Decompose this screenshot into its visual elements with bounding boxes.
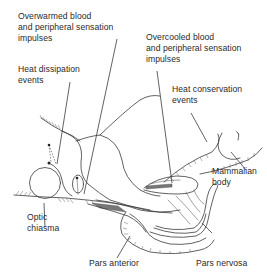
- pars-anterior-shape: [121, 212, 214, 254]
- label-line: impulses: [18, 33, 113, 44]
- label-overcooled-blood: Overcooled blood and peripheral sensatio…: [146, 32, 241, 65]
- preoptic-marker: [48, 144, 57, 165]
- leader-heat-conservation: [191, 113, 207, 142]
- label-heat-dissipation: Heat dissipation events: [18, 64, 80, 86]
- label-line: Optic: [27, 212, 59, 223]
- hypothalamus-outline: [62, 96, 172, 214]
- upper-hatched-edge: [40, 115, 80, 141]
- label-pars-nervosa: Pars nervosa: [196, 258, 247, 269]
- label-line: body: [212, 177, 257, 188]
- label-optic-chiasma: Optic chiasma: [27, 212, 59, 234]
- optic-chiasma-shape: [30, 163, 73, 199]
- label-line: Overwarmed blood: [18, 11, 113, 22]
- leader-pars-anterior: [117, 236, 130, 258]
- label-line: events: [18, 75, 80, 86]
- label-line: Heat conservation: [172, 84, 242, 95]
- label-line: Mammalian: [212, 166, 257, 177]
- label-pars-anterior: Pars anterior: [89, 258, 139, 269]
- label-line: chiasma: [27, 223, 59, 234]
- label-line: impulses: [146, 54, 241, 65]
- label-line: Pars nervosa: [196, 258, 247, 269]
- label-line: events: [172, 95, 242, 106]
- leader-heat-dissipation: [57, 82, 70, 164]
- label-line: Pars anterior: [89, 258, 139, 269]
- label-mammalian-body: Mammalian body: [212, 166, 257, 188]
- label-line: and peripheral sensation: [146, 43, 241, 54]
- label-line: and peripheral sensation: [18, 22, 113, 33]
- label-overwarmed-blood: Overwarmed blood and peripheral sensatio…: [18, 11, 113, 44]
- leader-overwarmed: [84, 39, 117, 194]
- pars-nervosa-shape: [150, 184, 218, 237]
- label-line: Overcooled blood: [146, 32, 241, 43]
- leader-overcooled: [157, 71, 172, 183]
- label-line: Heat dissipation: [18, 64, 80, 75]
- small-oval: [73, 175, 84, 194]
- infundibular-stalk: [88, 200, 180, 232]
- label-heat-conservation: Heat conservation events: [172, 84, 242, 106]
